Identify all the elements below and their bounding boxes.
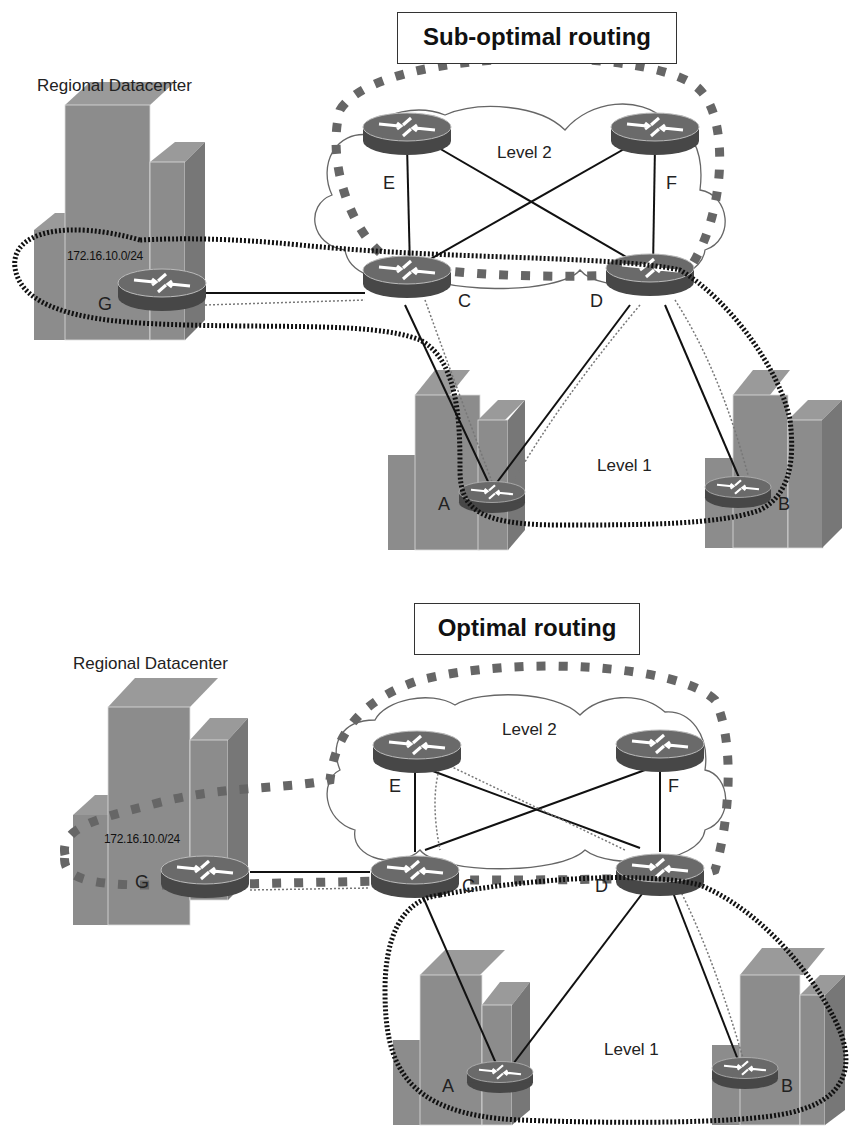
level2-label-top: Level 2 <box>497 143 552 163</box>
network-label-bottom: 172.16.10.0/24 <box>104 832 180 846</box>
router-c-label-top: C <box>458 291 471 312</box>
router-e-label-top: E <box>383 173 395 194</box>
router-g-top <box>118 269 206 311</box>
router-a-bottom <box>467 1062 533 1094</box>
router-f-label-bottom: F <box>668 776 679 797</box>
router-b-label-bottom: B <box>781 1076 793 1097</box>
router-a-label-bottom: A <box>442 1076 454 1097</box>
datacenter-label-bottom: Regional Datacenter <box>73 654 228 674</box>
panel-title-bottom: Optimal routing <box>414 603 640 655</box>
router-e-bottom <box>373 731 461 773</box>
site-b-building-bottom <box>712 948 845 1125</box>
router-f-top <box>611 113 699 155</box>
router-d-top <box>606 254 694 296</box>
level1-label-top: Level 1 <box>597 456 652 476</box>
router-d-bottom <box>616 854 704 896</box>
router-c-label-bottom: C <box>462 876 475 897</box>
router-g-label-top: G <box>98 294 112 315</box>
router-d-label-bottom: D <box>595 876 608 897</box>
router-d-label-top: D <box>590 291 603 312</box>
level2-label-bottom: Level 2 <box>502 720 557 740</box>
router-g-label-bottom: G <box>135 872 149 893</box>
routing-diagram <box>0 0 865 1134</box>
router-b-bottom <box>712 1058 778 1090</box>
router-b-top <box>705 477 771 509</box>
level1-label-bottom: Level 1 <box>604 1040 659 1060</box>
router-c-bottom <box>371 856 459 898</box>
router-e-top <box>363 113 451 155</box>
router-a-top <box>459 482 525 514</box>
panel-title-top: Sub-optimal routing <box>397 12 677 64</box>
router-e-label-bottom: E <box>389 776 401 797</box>
router-g-bottom <box>161 856 249 898</box>
router-a-label-top: A <box>438 494 450 515</box>
router-b-label-top: B <box>778 494 790 515</box>
router-f-label-top: F <box>666 173 677 194</box>
site-a-building-bottom <box>393 950 530 1125</box>
network-label-top: 172.16.10.0/24 <box>67 249 143 263</box>
router-c-top <box>363 256 451 298</box>
datacenter-label-top: Regional Datacenter <box>37 76 192 96</box>
router-f-bottom <box>616 730 704 772</box>
site-b-building-top <box>705 370 842 548</box>
